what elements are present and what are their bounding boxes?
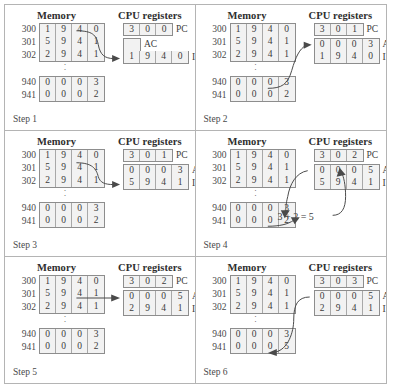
memory-address: 301 [13,162,39,175]
memory-word: 0003 [39,328,105,341]
pc-register-row: 300PC [123,23,196,36]
memory-address: 941 [13,215,39,228]
ac-digit: 0 [124,291,140,303]
cpu-registers-header: CPU registers [118,136,182,147]
memory-word-digit: 1 [88,175,104,187]
ellipsis-dots: ·· [252,314,260,324]
memory-address: 301 [204,288,230,301]
ir-register: 1940 [123,51,189,64]
ir-register-row: 5941IR [314,177,387,190]
memory-word-digit: 4 [263,301,279,313]
ac-digit: 0 [156,165,172,177]
memory-word-digit: 0 [279,276,295,288]
ac-digit: 0 [315,165,331,177]
ir-digit: 4 [156,51,172,63]
memory-row: 3001940 [13,149,105,162]
memory-word-digit: 1 [279,175,295,187]
ac-register-row: AC [123,38,196,51]
pc-digit: 0 [156,24,172,35]
memory-word-digit: 0 [247,89,263,101]
memory-word-digit: 4 [263,150,279,162]
memory-word-digit: 3 [279,77,295,89]
cpu-register-block: 302PC0005AC2941IR [123,275,196,316]
memory-word-digit: 9 [247,24,263,36]
memory-address: 940 [204,202,230,215]
pc-label: PC [173,23,188,36]
memory-word-digit: 1 [279,301,295,313]
memory-row: 3015941 [13,288,105,301]
memory-word: 5941 [230,36,296,49]
memory-word-digit: 9 [56,162,72,175]
memory-row: 3001940 [204,23,296,36]
memory-row: 3022941 [13,49,105,62]
ac-label: AC [380,290,387,303]
ac-digit: 0 [315,39,331,51]
memory-word-digit: 0 [247,329,263,341]
memory-word-digit: 4 [72,36,88,49]
memory-block: 30019403015941302294194000039410005 [204,275,296,354]
step-label: Step 5 [13,367,37,377]
memory-word-digit: 4 [263,276,279,288]
memory-address: 941 [13,89,39,102]
cpu-register-block: 303PC0005AC2941IR [314,275,387,316]
step-label: Step 1 [13,114,37,124]
ir-digit: 4 [156,177,172,189]
memory-word-digit: 0 [263,341,279,353]
memory-word-digit: 4 [72,49,88,61]
step-label: Step 3 [13,240,37,250]
memory-word-digit: 4 [72,175,88,187]
ac-register: 0003 [314,38,380,51]
memory-header: Memory [228,10,267,21]
memory-word-digit: 0 [72,203,88,215]
memory-word-digit: 1 [40,276,56,288]
memory-word: 5941 [39,36,105,49]
memory-row: 9410005 [204,341,296,354]
ir-register-row: 2941IR [123,303,196,316]
memory-word-digit: 0 [231,215,247,227]
memory-row: 3001940 [204,275,296,288]
ac-digit: 5 [363,291,379,303]
ir-digit: 1 [363,303,379,315]
ir-digit: 0 [172,51,188,63]
memory-word-digit: 1 [88,36,104,49]
memory-word-digit: 0 [56,77,72,89]
memory-word-digit: 4 [72,301,88,313]
memory-word: 2941 [39,301,105,314]
cpu-registers-header: CPU registers [118,262,182,273]
memory-row: 3001940 [204,149,296,162]
ac-digit: 3 [363,39,379,51]
alu-equation: 3 + 2 = 5 [278,211,314,222]
memory-word: 1940 [39,149,105,162]
memory-row: 9410002 [13,341,105,354]
memory-word: 5941 [39,288,105,301]
memory-address: 940 [13,202,39,215]
pc-label: PC [364,23,379,36]
memory-address: 940 [13,76,39,89]
ir-register-row: 1940IR [123,51,196,64]
memory-word-digit: 0 [72,341,88,353]
ac-register: 0005 [314,290,380,303]
memory-row: 3022941 [204,49,296,62]
memory-row: 3001940 [13,275,105,288]
memory-block: 30019403015941302294194000039410002 [13,149,105,228]
memory-row: 9400003 [204,328,296,341]
memory-address: 941 [13,341,39,354]
ir-register: 5941 [314,177,380,190]
ac-digit: 0 [347,165,363,177]
pc-label: PC [173,275,188,288]
ir-register: 1940 [314,51,380,64]
ellipsis-dots: ·· [61,62,69,72]
memory-header: Memory [37,136,76,147]
memory-word-digit: 0 [263,203,279,215]
pc-digit: 0 [140,24,156,35]
memory-word-digit: 0 [247,203,263,215]
ir-digit: 0 [363,51,379,63]
memory-word-digit: 9 [56,288,72,301]
memory-header: Memory [37,262,76,273]
memory-word-digit: 0 [56,341,72,353]
memory-row: 9410002 [13,89,105,102]
memory-word: 0002 [230,89,296,102]
ac-label: AC [380,164,387,177]
ir-digit: 5 [124,177,140,189]
pc-digit: 3 [124,24,140,35]
